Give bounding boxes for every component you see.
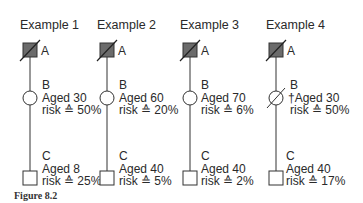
individual-b-risk: risk ≙ 50%	[290, 104, 349, 116]
example-2: Example 2 A B Aged 60 risk ≙ 20% C Aged …	[97, 0, 177, 203]
female-icon	[100, 91, 114, 105]
male-icon	[269, 171, 283, 185]
example-4: Example 4 A B †Aged 30 risk ≙ 50% C Aged…	[266, 0, 346, 203]
individual-b-label: B	[42, 79, 50, 91]
individual-b-risk: risk ≙ 50%	[42, 104, 101, 116]
example-1: Example 1 A B Aged 30 risk ≙ 50% C Aged …	[20, 0, 100, 203]
male-icon	[23, 171, 37, 185]
female-icon	[23, 91, 37, 105]
individual-b-label: B	[201, 79, 209, 91]
individual-b-label: B	[119, 79, 127, 91]
male-icon	[183, 171, 197, 185]
example-3: Example 3 A B Aged 70 risk ≙ 6% C Aged 4…	[180, 0, 260, 203]
individual-a-label: A	[118, 45, 126, 57]
individual-c-risk: risk ≙ 17%	[286, 175, 345, 187]
female-icon	[183, 91, 197, 105]
individual-a-label: A	[287, 45, 295, 57]
individual-b-risk: risk ≙ 20%	[119, 104, 178, 116]
individual-a-label: A	[41, 45, 49, 57]
individual-c-risk: risk ≙ 5%	[119, 175, 172, 187]
figure-caption: Figure 8.2	[14, 190, 57, 201]
individual-c-label: C	[286, 150, 295, 162]
individual-b-risk: risk ≙ 6%	[201, 104, 254, 116]
individual-c-label: C	[42, 150, 51, 162]
individual-c-label: C	[201, 150, 210, 162]
individual-c-label: C	[119, 150, 128, 162]
individual-c-risk: risk ≙ 25%	[42, 175, 101, 187]
individual-c-risk: risk ≙ 2%	[201, 175, 254, 187]
individual-b-label: B	[290, 79, 298, 91]
male-icon	[100, 171, 114, 185]
individual-a-label: A	[201, 45, 209, 57]
